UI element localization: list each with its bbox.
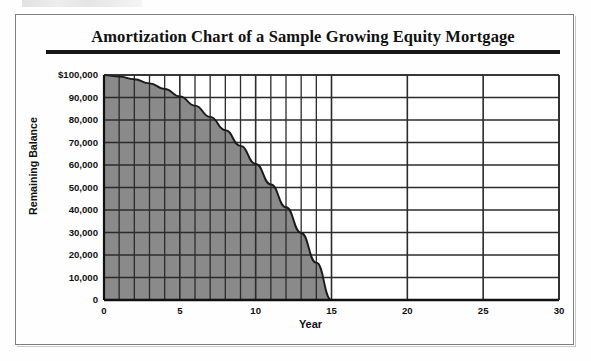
y-axis-tick-label: 90,000 xyxy=(38,92,98,103)
y-axis-tick-label: 60,000 xyxy=(38,159,98,170)
y-axis-tick-label: $100,000 xyxy=(38,69,98,80)
x-axis-tick-label: 10 xyxy=(236,305,276,316)
x-axis-tick-label: 15 xyxy=(312,305,352,316)
y-axis-tick-label: 80,000 xyxy=(38,114,98,125)
y-axis-tick-label: 50,000 xyxy=(38,182,98,193)
y-axis-tick-label: 10,000 xyxy=(38,272,98,283)
x-axis-tick-label: 20 xyxy=(387,305,427,316)
x-axis-tick-label: 5 xyxy=(160,305,200,316)
y-axis-tick-label: 70,000 xyxy=(38,137,98,148)
chart-page: Amortization Chart of a Sample Growing E… xyxy=(0,0,591,361)
y-axis-tick-label: 30,000 xyxy=(38,227,98,238)
x-axis-tick-label: 0 xyxy=(84,305,124,316)
y-axis-tick-label: 40,000 xyxy=(38,204,98,215)
y-axis-tick-label: 20,000 xyxy=(38,249,98,260)
x-axis-tick-label: 30 xyxy=(539,305,579,316)
x-axis-tick-label: 25 xyxy=(463,305,503,316)
y-axis-tick-label: 0 xyxy=(38,294,98,305)
x-axis-title: Year xyxy=(0,318,591,330)
